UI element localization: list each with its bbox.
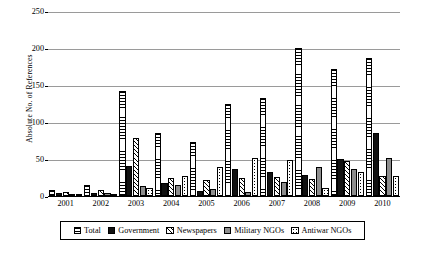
bar-total-2007 [260, 98, 266, 196]
bar-antiwar-ngos-2003 [146, 188, 152, 196]
bar-antiwar-ngos-2004 [182, 176, 188, 196]
bar-total-2002 [84, 185, 90, 196]
bar-government-2006 [232, 169, 238, 196]
bar-total-2004 [155, 133, 161, 196]
x-axis-label-2002: 2002 [83, 199, 118, 208]
plot-area: 050100150200250 [48, 12, 400, 197]
y-axis-tick-label: 200 [10, 45, 44, 53]
x-axis-label-2003: 2003 [118, 199, 153, 208]
y-axis-tick-label: 50 [10, 156, 44, 164]
bar-newspapers-2008 [309, 179, 315, 196]
bar-groups [48, 12, 400, 196]
bar-total-2006 [225, 104, 231, 196]
x-axis-label-2008: 2008 [294, 199, 329, 208]
x-axis-label-2006: 2006 [224, 199, 259, 208]
bar-military-ngos-2006 [245, 192, 251, 196]
bar-military-ngos-2003 [140, 186, 146, 196]
x-axis-label-2007: 2007 [259, 199, 294, 208]
bar-military-ngos-2002 [104, 193, 110, 196]
bar-government-2008 [302, 175, 308, 196]
bar-military-ngos-2007 [281, 182, 287, 196]
bar-government-2001 [56, 193, 62, 196]
x-axis-label-2004: 2004 [154, 199, 189, 208]
bar-group-2006 [224, 12, 259, 196]
legend-item-government[interactable]: Government [108, 226, 159, 235]
bar-newspapers-2006 [239, 178, 245, 197]
legend-swatch-icon [74, 227, 82, 235]
bar-newspapers-2005 [203, 180, 209, 196]
bar-antiwar-ngos-2008 [322, 188, 328, 196]
bar-military-ngos-2008 [316, 167, 322, 196]
bar-group-2010 [365, 12, 400, 196]
x-axis-label-2009: 2009 [330, 199, 365, 208]
bar-group-2005 [189, 12, 224, 196]
bar-group-2009 [330, 12, 365, 196]
bar-group-2007 [259, 12, 294, 196]
bar-group-2002 [83, 12, 118, 196]
legend-swatch-icon [166, 227, 174, 235]
bar-newspapers-2001 [63, 192, 69, 196]
bar-newspapers-2003 [133, 138, 139, 196]
bar-military-ngos-2004 [175, 185, 181, 196]
bar-newspapers-2007 [274, 177, 280, 196]
x-axis-label-2005: 2005 [189, 199, 224, 208]
legend-item-newspapers[interactable]: Newspapers [166, 226, 217, 235]
legend-label: Newspapers [177, 226, 217, 235]
bar-newspapers-2002 [98, 190, 104, 196]
bar-group-2004 [154, 12, 189, 196]
y-axis-tick-label: 100 [10, 119, 44, 127]
bar-government-2010 [373, 133, 379, 196]
x-axis-label-2010: 2010 [365, 199, 400, 208]
bar-group-2001 [48, 12, 83, 196]
legend-label: Total [84, 226, 101, 235]
bar-military-ngos-2010 [386, 158, 392, 196]
legend-swatch-icon [224, 227, 232, 235]
y-axis-tick-label: 150 [10, 82, 44, 90]
bar-antiwar-ngos-2005 [217, 167, 223, 196]
bar-total-2008 [295, 48, 301, 196]
legend-item-military-ngos[interactable]: Military NGOs [224, 226, 284, 235]
bar-government-2004 [161, 183, 167, 196]
bar-total-2005 [190, 142, 196, 196]
bar-antiwar-ngos-2007 [287, 160, 293, 196]
bar-government-2009 [337, 159, 343, 196]
bar-newspapers-2004 [168, 178, 174, 197]
bar-antiwar-ngos-2002 [111, 194, 117, 196]
bar-total-2001 [49, 190, 55, 196]
x-axis-labels: 2001200220032004200520062007200820092010 [48, 199, 400, 208]
bar-newspapers-2010 [379, 176, 385, 196]
bar-antiwar-ngos-2009 [358, 172, 364, 196]
legend-label: Government [118, 226, 159, 235]
bar-antiwar-ngos-2001 [76, 194, 82, 196]
bar-total-2003 [119, 91, 125, 196]
bar-antiwar-ngos-2006 [252, 158, 258, 196]
legend-label: Military NGOs [234, 226, 284, 235]
bar-newspapers-2009 [344, 161, 350, 196]
bar-government-2003 [126, 166, 132, 196]
bar-antiwar-ngos-2010 [393, 176, 399, 196]
bar-military-ngos-2009 [351, 169, 357, 196]
bar-total-2010 [366, 58, 372, 196]
y-axis-tick-mark [45, 197, 48, 198]
bar-military-ngos-2005 [210, 189, 216, 196]
chart-legend: TotalGovernmentNewspapersMilitary NGOsAn… [60, 221, 365, 240]
legend-item-total[interactable]: Total [74, 226, 101, 235]
bar-chart: Absolute No. of References 0501001502002… [0, 0, 425, 255]
bar-group-2003 [118, 12, 153, 196]
legend-swatch-icon [291, 227, 299, 235]
bar-group-2008 [294, 12, 329, 196]
y-axis-tick-label: 0 [10, 193, 44, 201]
bar-military-ngos-2001 [69, 194, 75, 196]
legend-item-antiwar-ngos[interactable]: Antiwar NGOs [291, 226, 351, 235]
legend-label: Antiwar NGOs [302, 226, 352, 235]
bar-government-2002 [91, 193, 97, 196]
y-axis-tick-label: 250 [10, 8, 44, 16]
bar-government-2005 [197, 191, 203, 196]
bar-government-2007 [267, 172, 273, 196]
x-axis-label-2001: 2001 [48, 199, 83, 208]
legend-swatch-icon [108, 227, 116, 235]
bar-total-2009 [331, 69, 337, 196]
